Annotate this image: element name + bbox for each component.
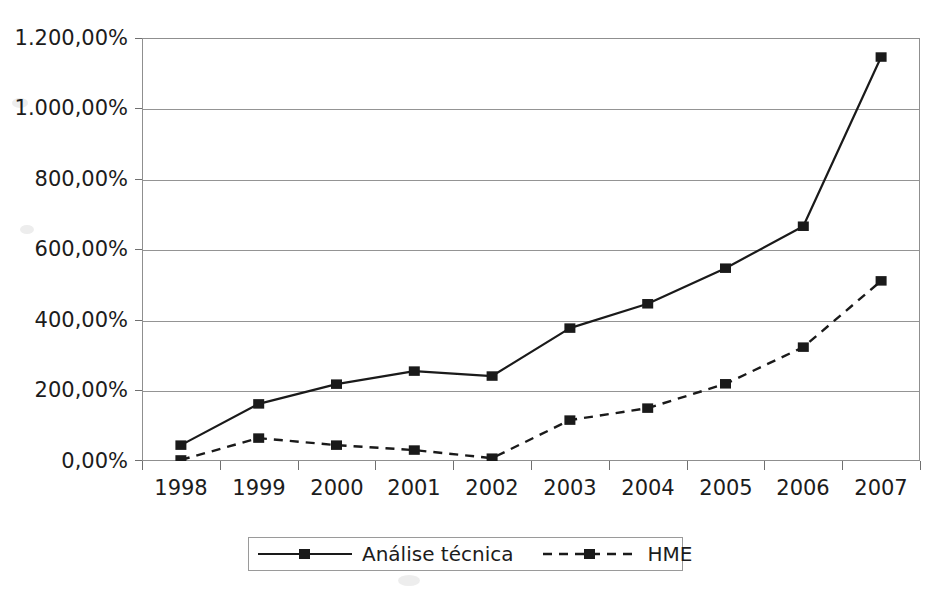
x-tick-mark (531, 461, 532, 470)
legend-label: Análise técnica (362, 542, 513, 566)
x-tick-label: 2001 (375, 478, 453, 499)
x-tick-mark (609, 461, 610, 470)
legend-dashed-line-swatch (543, 545, 637, 563)
y-tick-mark (135, 390, 142, 391)
y-tick-mark (135, 249, 142, 250)
y-tick-label: 1.200,00% (15, 28, 128, 49)
y-tick-mark (135, 460, 142, 461)
x-tick-mark (375, 461, 376, 470)
gridline (143, 250, 919, 251)
y-tick-label: 0,00% (61, 451, 128, 472)
y-tick-label: 200,00% (35, 380, 128, 401)
scan-artifact (398, 575, 420, 586)
x-tick-mark (842, 461, 843, 470)
legend-label: HME (647, 542, 692, 566)
y-tick-mark (135, 108, 142, 109)
x-tick-mark (920, 461, 921, 470)
y-tick-mark (135, 179, 142, 180)
gridline (143, 180, 919, 181)
x-tick-label: 2002 (453, 478, 531, 499)
y-tick-label: 800,00% (35, 169, 128, 190)
x-tick-mark (687, 461, 688, 470)
x-tick-label: 2003 (531, 478, 609, 499)
x-tick-label: 2000 (298, 478, 376, 499)
x-tick-label: 1998 (142, 478, 220, 499)
x-tick-mark (764, 461, 765, 470)
y-tick-label: 400,00% (35, 310, 128, 331)
x-tick-label: 1999 (220, 478, 298, 499)
x-tick-label: 2004 (609, 478, 687, 499)
x-tick-mark (220, 461, 221, 470)
y-tick-label: 600,00% (35, 239, 128, 260)
legend-entry-analise-tecnica: Análise técnica (258, 538, 513, 570)
x-tick-label: 2006 (764, 478, 842, 499)
y-tick-mark (135, 320, 142, 321)
legend-entry-hme: HME (543, 538, 692, 570)
plot-area (142, 38, 920, 461)
x-tick-label: 2005 (687, 478, 765, 499)
chart-legend: Análise técnica HME (248, 537, 683, 571)
line-chart: 1.200,00% 1.000,00% 800,00% 600,00% 400,… (0, 0, 951, 600)
x-tick-label: 2007 (842, 478, 920, 499)
x-tick-mark (453, 461, 454, 470)
x-tick-mark (298, 461, 299, 470)
legend-solid-line-swatch (258, 545, 352, 563)
y-tick-mark (135, 38, 142, 39)
gridline (143, 321, 919, 322)
gridline (143, 391, 919, 392)
gridline (143, 109, 919, 110)
x-tick-mark (142, 461, 143, 470)
y-tick-label: 1.000,00% (15, 98, 128, 119)
y-axis-labels: 1.200,00% 1.000,00% 800,00% 600,00% 400,… (0, 0, 128, 600)
